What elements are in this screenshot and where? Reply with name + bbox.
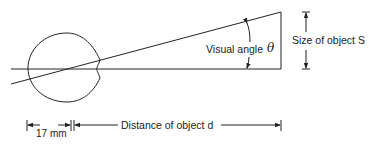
eye-outline bbox=[28, 33, 100, 102]
distance-label: Distance of object d bbox=[121, 119, 213, 131]
eye-length-label: 17 mm bbox=[36, 128, 67, 140]
size-of-object-label: Size of object S bbox=[292, 34, 365, 46]
theta-symbol: θ bbox=[267, 42, 274, 54]
visual-angle-arc bbox=[247, 23, 250, 42]
visual-angle-arc-lower bbox=[247, 57, 249, 68]
visual-angle-label: Visual angle bbox=[206, 43, 263, 55]
